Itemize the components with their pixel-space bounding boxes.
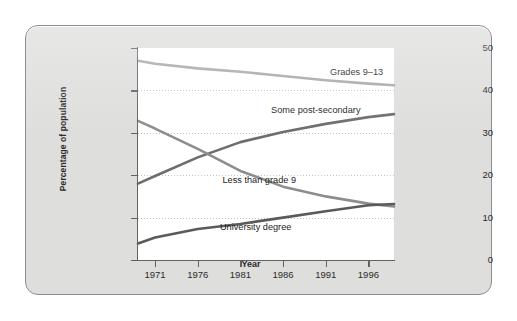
x-axis-title: Year xyxy=(106,259,396,269)
series-label: Less than grade 9 xyxy=(222,175,296,185)
y-tick-mark xyxy=(131,175,137,176)
series-label: University degree xyxy=(220,222,292,232)
y-tick-label: 10 xyxy=(397,212,493,223)
series-label: Some post-secondary xyxy=(271,105,360,115)
y-tick-mark xyxy=(131,48,137,49)
series-label: Grades 9–13 xyxy=(330,67,383,77)
figure-panel: Percentage of population 01020304050 197… xyxy=(25,25,492,295)
y-tick-label: 40 xyxy=(397,84,493,95)
y-tick-label: 0 xyxy=(397,254,493,265)
y-axis-line xyxy=(137,47,138,261)
y-tick-label: 30 xyxy=(397,127,493,138)
y-tick-mark xyxy=(131,90,137,91)
series-line xyxy=(138,121,394,207)
line-chart: Percentage of population 01020304050 197… xyxy=(26,26,493,296)
series-line xyxy=(138,114,394,184)
x-tick-label: 1996 xyxy=(343,269,393,280)
y-tick-mark xyxy=(131,218,137,219)
y-axis-title: Percentage of population xyxy=(58,64,68,214)
y-tick-mark xyxy=(131,133,137,134)
y-tick-label: 50 xyxy=(397,42,493,53)
y-tick-label: 20 xyxy=(397,169,493,180)
